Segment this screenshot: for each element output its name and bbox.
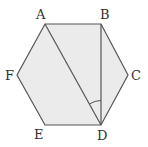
hexagon-diagram: A B C D E F — [0, 0, 148, 147]
vertex-label-b: B — [100, 8, 110, 21]
vertex-label-f: F — [5, 69, 14, 82]
vertex-label-c: C — [131, 69, 141, 82]
hexagon-figure — [0, 0, 148, 147]
vertex-label-d: D — [97, 129, 107, 142]
vertex-label-a: A — [36, 8, 45, 21]
vertex-label-e: E — [34, 128, 44, 141]
